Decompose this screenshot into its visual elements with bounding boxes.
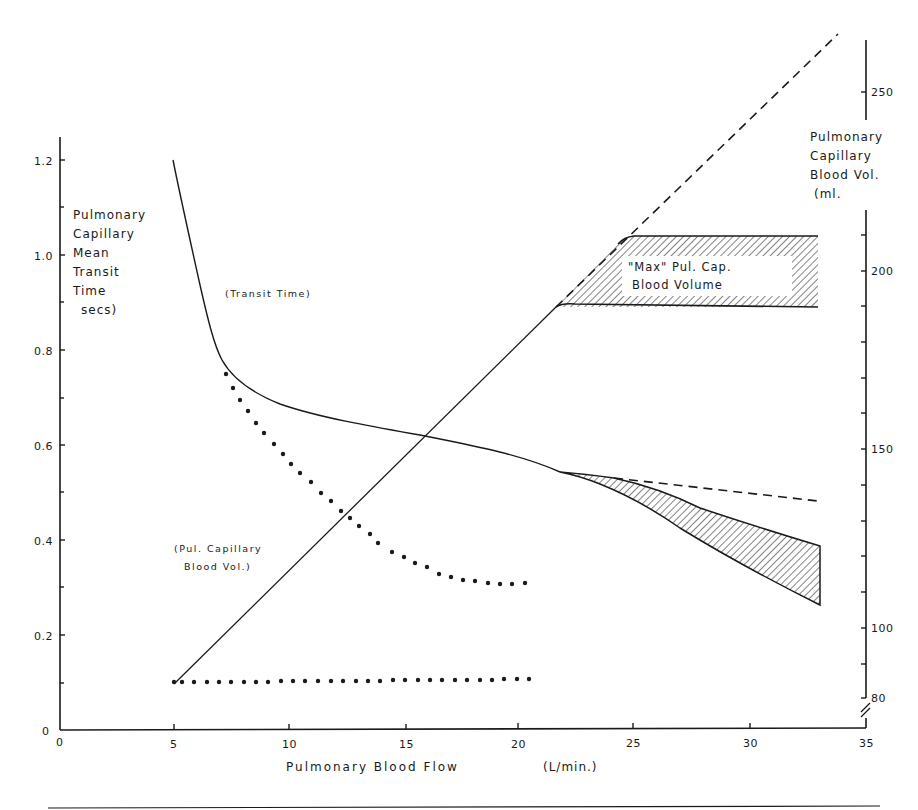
x-tick-0: 0 [56, 733, 64, 752]
transit-time-curve [173, 160, 560, 472]
left-title-line: secs) [73, 301, 146, 320]
x-tick-35: 35 [859, 734, 874, 753]
blood-vol-annotation-line: Blood Vol.) [174, 558, 262, 576]
right-axis-title: Pulmonary Capillary Blood Vol. (ml. [810, 128, 883, 204]
right-tick-200: 200 [871, 262, 894, 281]
dotted-blood-volume-row [172, 677, 531, 684]
x-tick-5: 5 [170, 735, 178, 754]
left-tick-0.4: 0.4 [34, 532, 53, 551]
left-title-line: Capillary [73, 225, 146, 244]
left-title-line: Time [73, 282, 146, 301]
chart-canvas [0, 0, 918, 810]
right-title-line: Blood Vol. [810, 166, 883, 185]
blood-vol-annotation: (Pul. Capillary Blood Vol.) [174, 540, 262, 576]
left-title-line: Transit [73, 263, 146, 282]
left-tick-0.6: 0.6 [34, 437, 53, 456]
x-axis-title: Pulmonary Blood Flow [286, 758, 459, 777]
left-y-axis [60, 137, 65, 730]
left-title-line: Mean [73, 244, 146, 263]
x-axis-units: (L/min.) [543, 758, 598, 777]
blood-vol-annotation-line: (Pul. Capillary [174, 540, 262, 558]
right-tick-80: 80 [871, 689, 886, 708]
x-tick-25: 25 [626, 734, 641, 753]
max-volume-label-line: "Max" Pul. Cap. [628, 258, 786, 276]
x-axis [60, 723, 866, 730]
dotted-transit-curve [224, 372, 527, 586]
transit-time-range-band [560, 472, 820, 605]
left-tick-1.0: 1.0 [34, 247, 53, 266]
right-title-line: (ml. [810, 185, 883, 204]
x-tick-20: 20 [511, 735, 526, 754]
left-tick-0.2: 0.2 [34, 627, 53, 646]
left-title-line: Pulmonary [73, 206, 146, 225]
right-tick-100: 100 [871, 619, 894, 638]
x-tick-30: 30 [743, 734, 758, 753]
bottom-rule [48, 806, 880, 808]
x-tick-10: 10 [282, 735, 297, 754]
left-tick-0.8: 0.8 [34, 342, 53, 361]
right-tick-150: 150 [871, 440, 894, 459]
right-title-line: Pulmonary [810, 128, 883, 147]
blood-volume-line [174, 307, 556, 684]
transit-time-annotation: (Transit Time) [225, 285, 311, 303]
left-tick-0: 0 [42, 722, 50, 741]
max-volume-label-box: "Max" Pul. Cap. Blood Volume [622, 256, 792, 296]
right-tick-250: 250 [871, 83, 894, 102]
right-title-line: Capillary [810, 147, 883, 166]
max-volume-label-line: Blood Volume [628, 276, 786, 294]
x-tick-15: 15 [399, 735, 414, 754]
left-tick-1.2: 1.2 [34, 152, 53, 171]
left-axis-title: Pulmonary Capillary Mean Transit Time se… [73, 206, 146, 320]
